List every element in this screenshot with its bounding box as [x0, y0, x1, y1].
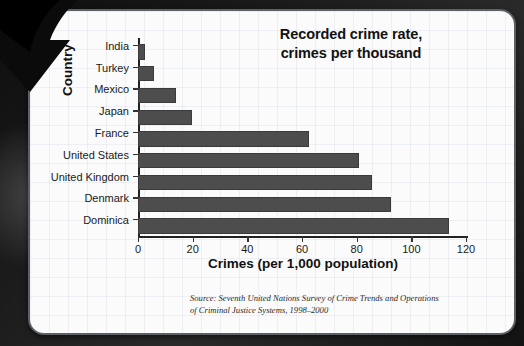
y-axis-label: United States — [63, 149, 129, 162]
down-left-arrow-icon — [0, 0, 120, 120]
x-axis-tick — [357, 236, 358, 242]
source-note: Source: Seventh United Nations Survey of… — [190, 292, 490, 317]
x-axis-tick — [411, 236, 412, 242]
plot-area: IndiaTurkeyMexicoJapanFranceUnited State… — [138, 40, 466, 236]
bar — [138, 153, 359, 168]
x-axis-title: Crimes (per 1,000 population) — [138, 256, 468, 271]
x-axis-tick-label: 80 — [351, 243, 363, 255]
x-axis-tick — [302, 236, 303, 242]
y-axis-label: France — [95, 127, 129, 140]
x-axis-tick-label: 20 — [187, 243, 199, 255]
x-axis-tick-label: 120 — [457, 243, 475, 255]
slide-background: Recorded crime rate, crimes per thousand… — [0, 0, 524, 346]
x-axis-tick — [138, 236, 139, 242]
source-line-2: of Criminal Justice Systems, 1998–2000 — [190, 304, 490, 316]
x-axis-tick-label: 60 — [296, 243, 308, 255]
x-axis-tick — [247, 236, 248, 242]
bar — [138, 175, 372, 190]
x-axis-tick-label: 0 — [135, 243, 141, 255]
bar — [138, 197, 391, 212]
source-line-1: Source: Seventh United Nations Survey of… — [190, 292, 490, 304]
x-axis-tick-label: 100 — [402, 243, 420, 255]
bar — [138, 88, 176, 103]
bar — [138, 44, 145, 59]
bar — [138, 110, 192, 125]
bar — [138, 66, 154, 81]
y-axis-label: Dominica — [83, 214, 129, 227]
x-axis-tick — [193, 236, 194, 242]
x-axis-tick — [466, 236, 467, 242]
y-axis-label: United Kingdom — [51, 171, 129, 184]
bar — [138, 131, 309, 146]
y-axis-label: Denmark — [84, 192, 129, 205]
bar — [138, 218, 449, 233]
x-axis-tick-label: 40 — [241, 243, 253, 255]
